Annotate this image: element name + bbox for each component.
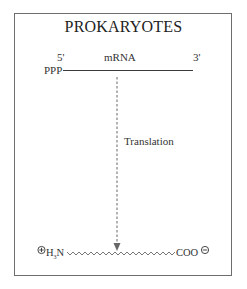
n-terminus-n: N [57, 247, 65, 258]
positive-charge-icon [38, 246, 45, 253]
c-terminus-label: COO [176, 248, 198, 259]
n-terminus-h: H [46, 247, 54, 258]
negative-charge-icon [201, 246, 208, 253]
n-terminus-label: H3N [46, 248, 64, 260]
polypeptide-chain [67, 252, 175, 255]
arrow-head-icon [114, 243, 121, 251]
diagram-graphics [0, 0, 247, 289]
